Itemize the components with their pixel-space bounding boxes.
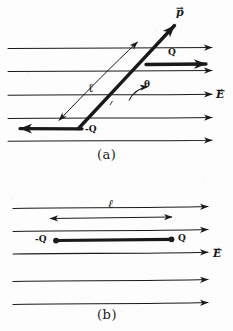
- negative-charge-dot: [53, 238, 59, 244]
- dipole-rod-b: [53, 236, 174, 243]
- force-arrow-positive-charge: [146, 64, 206, 65]
- panel-b-caption: (b): [97, 308, 117, 321]
- field-line: [13, 252, 208, 254]
- angle-label-theta: θ: [144, 80, 150, 89]
- field-label-a: → E: [216, 89, 224, 100]
- field-line: [13, 280, 208, 282]
- field-line: [13, 230, 208, 232]
- panel-b-field-lines: [13, 207, 208, 305]
- panel-a-caption: (a): [97, 148, 116, 161]
- field-line: [13, 303, 208, 305]
- positive-charge-label-a: Q: [168, 48, 176, 57]
- field-line: [8, 117, 212, 118]
- vector-arrow-icon: →: [176, 4, 184, 13]
- field-line: [8, 48, 212, 49]
- dipole-moment-label: → p: [176, 7, 184, 18]
- positive-charge-label-b: Q: [178, 234, 186, 243]
- field-label-b: → E: [213, 248, 221, 259]
- figure-canvas: → p Q -Q ℓ θ → E (a) ℓ -Q Q → E (b): [0, 0, 233, 331]
- vector-arrow-icon: →: [213, 245, 221, 254]
- dipole-axis-arrow: [79, 26, 175, 129]
- separation-label-b: ℓ: [108, 198, 113, 210]
- centre-tick-mark: [110, 101, 113, 105]
- field-line: [8, 71, 212, 72]
- vector-arrow-icon: →: [216, 86, 224, 95]
- field-line: [8, 140, 212, 141]
- diagram-svg: [0, 0, 233, 331]
- negative-charge-label-b: -Q: [35, 235, 47, 244]
- positive-charge-dot: [169, 236, 175, 242]
- separation-dimension-arrow-b: [50, 217, 172, 219]
- negative-charge-label-a: -Q: [85, 125, 97, 134]
